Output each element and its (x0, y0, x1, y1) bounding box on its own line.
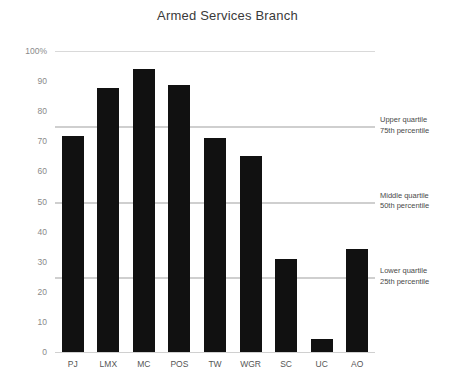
x-tick-label-pj: PJ (68, 359, 78, 369)
chart-title: Armed Services Branch (0, 8, 455, 23)
bar-ao[interactable] (346, 249, 368, 352)
x-tick-label-ao: AO (351, 359, 363, 369)
annotation-title: Upper quartile (380, 115, 455, 126)
bar-group: SC (268, 51, 304, 352)
y-tick-label: 100% (0, 46, 47, 56)
bar-group: PJ (55, 51, 91, 352)
annotation-subtitle: 50th percentile (380, 202, 455, 213)
bar-group: TW (197, 51, 233, 352)
bar-pos[interactable] (168, 85, 190, 352)
annotation-upper-quartile: Upper quartile75th percentile (380, 115, 455, 137)
bar-group: UC (304, 51, 340, 352)
bar-group: POS (162, 51, 198, 352)
x-tick-label-sc: SC (280, 359, 292, 369)
y-tick-label: 70 (0, 136, 47, 146)
bar-lmx[interactable] (97, 88, 119, 352)
y-tick-label: 40 (0, 227, 47, 237)
bar-group: MC (126, 51, 162, 352)
x-tick-label-mc: MC (137, 359, 150, 369)
y-tick-label: 0 (0, 347, 47, 357)
y-tick-label: 30 (0, 257, 47, 267)
bar-tw[interactable] (204, 138, 226, 352)
annotation-lower-quartile: Lower quartile25th percentile (380, 266, 455, 288)
gridline-0 (55, 352, 375, 353)
bar-uc[interactable] (311, 339, 333, 352)
x-tick-label-tw: TW (208, 359, 221, 369)
x-tick-label-uc: UC (316, 359, 328, 369)
bar-group: LMX (91, 51, 127, 352)
annotation-subtitle: 25th percentile (380, 277, 455, 288)
bar-sc[interactable] (275, 259, 297, 352)
y-tick-label: 10 (0, 317, 47, 327)
y-tick-label: 60 (0, 166, 47, 176)
plot-area: 0102030405060708090100% PJLMXMCPOSTWWGRS… (55, 51, 375, 352)
x-tick-label-wgr: WGR (240, 359, 261, 369)
bar-mc[interactable] (133, 69, 155, 352)
x-tick-label-pos: POS (170, 359, 188, 369)
y-tick-label: 80 (0, 106, 47, 116)
bar-wgr[interactable] (240, 156, 262, 352)
annotation-title: Middle quartile (380, 191, 455, 202)
annotation-middle-quartile: Middle quartile50th percentile (380, 191, 455, 213)
bar-group: WGR (233, 51, 269, 352)
y-tick-label: 20 (0, 287, 47, 297)
annotation-subtitle: 75th percentile (380, 126, 455, 137)
bar-pj[interactable] (62, 136, 84, 352)
x-tick-label-lmx: LMX (100, 359, 117, 369)
bar-group: AO (339, 51, 375, 352)
y-tick-label: 50 (0, 197, 47, 207)
bar-chart: Armed Services Branch 010203040506070809… (0, 0, 455, 390)
y-tick-label: 90 (0, 76, 47, 86)
bars: PJLMXMCPOSTWWGRSCUCAO (55, 51, 375, 352)
annotation-title: Lower quartile (380, 266, 455, 277)
